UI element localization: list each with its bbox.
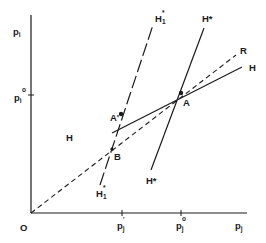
line-h1-star: [100, 25, 153, 185]
x-tick-sup-pj0: o: [182, 215, 186, 222]
label-h-star-top: H*: [202, 13, 213, 24]
point-a: [179, 91, 183, 95]
y-axis-label: pi: [13, 26, 21, 38]
y-tick-sup-pi0: o: [22, 86, 26, 93]
label-h-left: H: [66, 132, 73, 143]
label-r: R: [240, 45, 247, 56]
x-tick-sup-pj-prime: ': [123, 216, 125, 223]
x-axis-label: pj: [235, 220, 243, 233]
diagram: pi pj O pi o pj ' pj o H H H* H* H1 * H1…: [0, 0, 266, 243]
ray-r: [31, 55, 236, 213]
label-point-a-prime: A': [110, 112, 119, 123]
origin-label: O: [20, 222, 27, 233]
label-h-star-bottom: H*: [146, 175, 157, 186]
y-tick-label-pi0: pi: [14, 92, 22, 104]
line-h-star: [151, 28, 204, 170]
label-point-b: B: [114, 151, 121, 162]
label-h1-star-bottom-sup: *: [103, 184, 106, 191]
point-a-prime: [119, 112, 123, 116]
label-h1-star-top-sup: *: [162, 9, 165, 16]
label-h-right: H: [249, 62, 256, 73]
label-point-a: A: [183, 97, 190, 108]
